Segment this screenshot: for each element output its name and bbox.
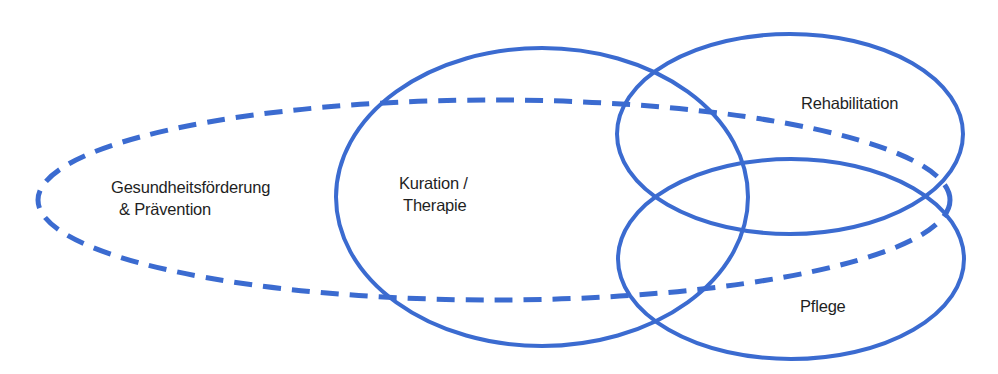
venn-diagram: Gesundheitsförderung & Prävention Kurati…	[0, 0, 998, 374]
rehabilitation-ellipse	[617, 34, 963, 234]
praevention-label-line2: & Prävention	[111, 198, 270, 220]
kuration-label-line2: Therapie	[399, 194, 468, 216]
kuration-label: Kuration / Therapie	[399, 172, 468, 216]
praevention-label-line1: Gesundheitsförderung	[111, 176, 270, 198]
praevention-label: Gesundheitsförderung & Prävention	[111, 176, 270, 220]
rehabilitation-label: Rehabilitation	[801, 92, 898, 114]
kuration-label-line1: Kuration /	[399, 172, 468, 194]
pflege-label: Pflege	[800, 295, 846, 317]
pflege-ellipse	[618, 159, 964, 359]
kuration-ellipse	[336, 48, 748, 346]
